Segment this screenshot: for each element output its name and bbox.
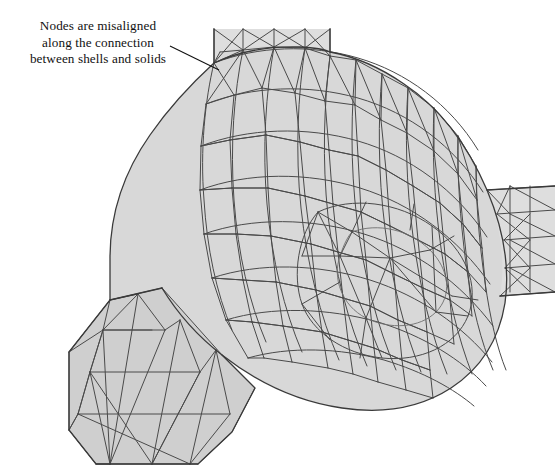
- annotation-line-1: Nodes are misaligned: [8, 18, 188, 35]
- fe-mesh-diagram: .f { fill: #d8d8d8; stroke: none; } .fs …: [0, 0, 555, 472]
- annotation-line-2: along the connection: [8, 35, 188, 52]
- figure-root: .f { fill: #d8d8d8; stroke: none; } .fs …: [0, 0, 555, 472]
- misalignment-annotation: Nodes are misaligned along the connectio…: [8, 18, 188, 68]
- annotation-line-3: between shells and solids: [8, 51, 188, 68]
